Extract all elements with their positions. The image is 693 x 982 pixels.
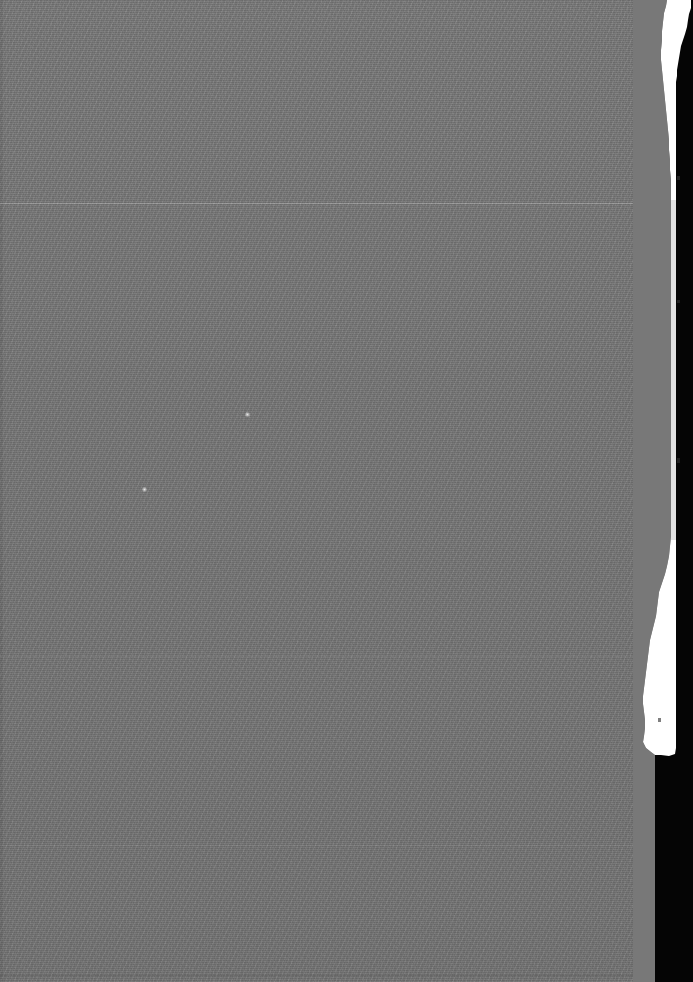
left-edge-shadow — [0, 0, 4, 982]
page-surface — [0, 0, 693, 982]
scanned-image-canvas — [0, 0, 693, 982]
